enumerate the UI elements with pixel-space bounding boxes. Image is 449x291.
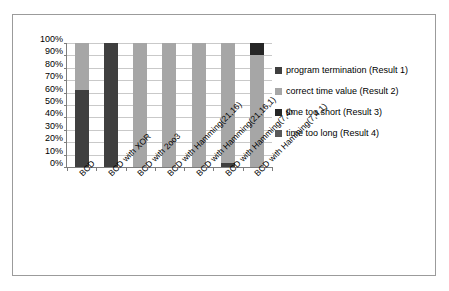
legend-item: correct time value (Result 2) <box>275 86 430 97</box>
stacked-bar[interactable] <box>104 43 118 167</box>
y-axis-tick-label: 0% <box>23 159 63 168</box>
legend-item: time too long (Result 4) <box>275 128 430 139</box>
bar-segment[interactable] <box>104 43 118 167</box>
y-axis-tick-label: 20% <box>23 134 63 143</box>
y-axis-labels: 0%10%20%30%40%50%60%70%80%90%100% <box>23 39 63 163</box>
y-axis-tick-label: 40% <box>23 109 63 118</box>
legend-item: time too short (Result 3) <box>275 107 430 118</box>
chart-container: 0%10%20%30%40%50%60%70%80%90%100% BCDBCD… <box>12 14 436 276</box>
bar-segment[interactable] <box>75 43 89 90</box>
legend-label: time too short (Result 3) <box>286 107 382 118</box>
legend-swatch-icon <box>275 67 282 74</box>
y-axis-tick-label: 60% <box>23 84 63 93</box>
x-axis-category-labels: BCDBCD with XORBCD with 2oo3BCD with Ham… <box>66 171 296 271</box>
plot-wrapper: 0%10%20%30%40%50%60%70%80%90%100% BCDBCD… <box>13 15 437 277</box>
bar-segment[interactable] <box>250 43 264 55</box>
legend-label: program termination (Result 1) <box>286 65 408 76</box>
bar-group <box>67 43 96 167</box>
stacked-bar[interactable] <box>75 43 89 167</box>
y-axis-tick-label: 100% <box>23 35 63 44</box>
legend-swatch-icon <box>275 130 282 137</box>
legend-swatch-icon <box>275 109 282 116</box>
y-axis-tick-label: 80% <box>23 59 63 68</box>
y-axis-tick-label: 10% <box>23 146 63 155</box>
y-axis-tick-label: 70% <box>23 72 63 81</box>
chart-legend: program termination (Result 1)correct ti… <box>275 65 430 149</box>
legend-swatch-icon <box>275 88 282 95</box>
bar-group <box>96 43 125 167</box>
y-axis-tick-label: 50% <box>23 97 63 106</box>
legend-label: time too long (Result 4) <box>286 128 379 139</box>
bar-segment[interactable] <box>75 90 89 167</box>
legend-label: correct time value (Result 2) <box>286 86 399 97</box>
y-axis-tick-label: 90% <box>23 47 63 56</box>
legend-item: program termination (Result 1) <box>275 65 430 76</box>
y-axis-tick-label: 30% <box>23 121 63 130</box>
